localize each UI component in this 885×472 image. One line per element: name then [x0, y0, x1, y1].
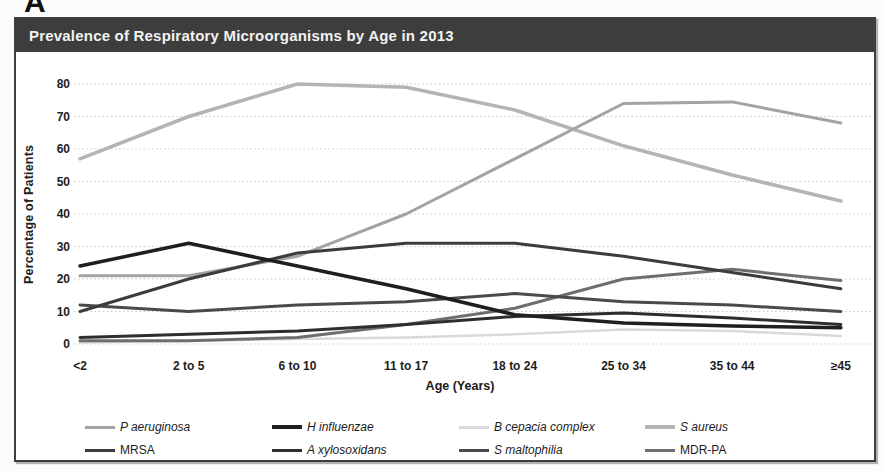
y-axis-title: Percentage of Patients	[22, 132, 36, 297]
y-tick-label: 20	[40, 271, 70, 287]
y-tick-label: 50	[40, 174, 70, 190]
legend-item: MRSA	[85, 442, 155, 458]
x-tick-label: <2	[73, 359, 87, 373]
legend-label: S maltophilia	[494, 443, 563, 457]
legend-item: B cepacia complex	[459, 419, 595, 435]
legend-item: P aeruginosa	[85, 419, 190, 435]
legend-swatch	[645, 449, 675, 452]
legend-item: S aureus	[645, 419, 728, 435]
chart-title: Prevalence of Respiratory Microorganisms…	[16, 19, 874, 52]
y-tick-label: 30	[40, 239, 70, 255]
x-tick-label: 35 to 44	[710, 359, 755, 373]
x-tick-label: 18 to 24	[492, 359, 537, 373]
line-chart	[74, 79, 872, 354]
y-tick-label: 60	[40, 141, 70, 157]
x-axis-title: Age (Years)	[426, 379, 495, 393]
legend-swatch	[459, 426, 489, 429]
x-tick-label: 11 to 17	[384, 359, 428, 373]
legend-label: S aureus	[680, 420, 728, 434]
y-tick-label: 70	[40, 109, 70, 125]
legend-label: B cepacia complex	[494, 420, 595, 434]
legend-swatch	[85, 449, 115, 452]
series-line-p-aeruginosa	[80, 102, 841, 276]
legend-swatch	[459, 449, 489, 452]
legend-swatch	[645, 425, 675, 429]
figure-frame: Prevalence of Respiratory Microorganisms…	[14, 17, 876, 462]
x-tick-label: 25 to 34	[601, 359, 646, 373]
legend-item: S maltophilia	[459, 442, 563, 458]
legend-item: MDR-PA	[645, 442, 726, 458]
y-tick-label: 40	[40, 206, 70, 222]
legend-swatch	[85, 426, 115, 429]
legend-item: A xylosoxidans	[272, 442, 387, 458]
legend-swatch	[272, 425, 302, 429]
legend-label: H influenzae	[307, 420, 374, 434]
legend-swatch	[272, 449, 302, 452]
y-tick-label: 80	[40, 76, 70, 92]
legend-label: MRSA	[120, 443, 155, 457]
x-tick-label: 6 to 10	[278, 359, 316, 373]
legend-label: P aeruginosa	[120, 420, 190, 434]
x-tick-label: ≥45	[831, 359, 851, 373]
legend-label: A xylosoxidans	[307, 443, 387, 457]
y-tick-label: 10	[40, 304, 70, 320]
y-tick-label: 0	[40, 336, 70, 352]
legend-item: H influenzae	[272, 419, 374, 435]
legend-label: MDR-PA	[680, 443, 726, 457]
x-tick-label: 2 to 5	[173, 359, 204, 373]
